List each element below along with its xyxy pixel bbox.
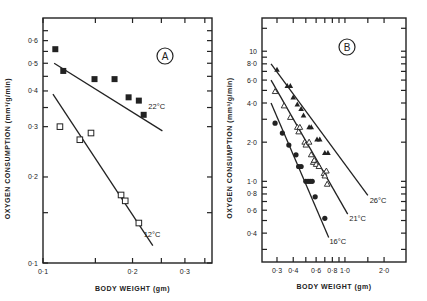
x-tick-label: 0·4 [288, 267, 298, 274]
panel-badge-label: B [344, 42, 351, 53]
y-axis-title: OXYGEN CONSUMPTION (mm³/g/min) [226, 77, 234, 218]
x-tick-label: 0·1 [38, 268, 48, 275]
data-point-circle-filled [286, 142, 291, 147]
data-point-triangle-open [306, 139, 312, 144]
data-point-square-open [136, 220, 142, 226]
y-axis-title: OXYGEN CONSUMPTION (mm³/g/min) [4, 78, 12, 219]
x-axis-title: BODY WEIGHT (gm) [296, 283, 371, 291]
x-tick-label: 0·6 [311, 267, 321, 274]
y-tick-label: 0·4 [28, 87, 38, 94]
y-tick-label: 0·6 [247, 207, 257, 214]
series-16c: 16°C [271, 103, 347, 246]
y-tick-label: 4·0 [247, 100, 257, 107]
y-tick-label: 0·3 [28, 123, 38, 130]
data-point-square-filled [126, 94, 132, 100]
data-point-square-open [122, 198, 128, 204]
regression-line [271, 103, 329, 238]
y-tick-label: 0·5 [28, 60, 38, 67]
figure: 0·10·20·30·10·20·30·40·50·6BODY WEIGHT (… [0, 0, 427, 301]
x-tick-label: 0·2 [127, 268, 137, 275]
data-point-circle-filled [280, 130, 285, 135]
y-tick-label: 0·2 [28, 173, 38, 180]
panel-a-chart: 0·10·20·30·10·20·30·40·50·6BODY WEIGHT (… [4, 18, 212, 293]
data-point-circle-filled [322, 216, 327, 221]
y-tick-label: 1·0 [247, 178, 257, 185]
x-tick-label: 1·0 [340, 267, 350, 274]
data-point-circle-filled [310, 179, 315, 184]
data-point-square-filled [136, 98, 142, 104]
data-point-square-open [88, 130, 94, 136]
y-tick-label: 0·1 [28, 260, 38, 267]
data-point-square-filled [92, 76, 98, 82]
data-point-circle-filled [293, 152, 298, 157]
data-point-circle-filled [299, 164, 304, 169]
y-tick-label: 0·6 [28, 37, 38, 44]
x-tick-label: 0·8 [327, 267, 337, 274]
y-tick-label: 6·0 [247, 77, 257, 84]
data-point-triangle-filled [301, 113, 307, 118]
plot-frame [262, 18, 406, 262]
x-tick-label: 0·3 [272, 267, 282, 274]
plot-frame [43, 18, 212, 263]
y-tick-label: 0·8 [247, 190, 257, 197]
x-tick-label: 0·3 [180, 268, 190, 275]
series-label: 12°C [144, 230, 161, 239]
data-point-square-filled [60, 68, 66, 74]
data-point-square-filled [52, 46, 58, 52]
series-label: 16°C [329, 237, 346, 246]
panel-b-chart: 0·30·40·60·81·02·00·40·60·81·02·04·06·08… [226, 18, 406, 291]
y-tick-label: 2·0 [247, 139, 257, 146]
data-point-square-filled [112, 76, 118, 82]
data-point-square-open [77, 137, 83, 143]
x-tick-label: 2·0 [379, 267, 389, 274]
series-21c: 21°C [271, 80, 367, 223]
panel-badge-label: A [162, 51, 169, 62]
data-point-circle-filled [313, 194, 318, 199]
data-point-square-filled [141, 112, 147, 118]
y-tick-label: 0·4 [247, 230, 257, 237]
y-tick-label: 8·0 [247, 60, 257, 67]
regression-line [271, 64, 368, 196]
data-point-circle-filled [272, 121, 277, 126]
data-point-square-open [57, 124, 63, 130]
y-tick-label: 10 [249, 48, 257, 55]
data-point-square-open [118, 192, 124, 198]
series-label: 26°C [370, 196, 387, 205]
series-label: 22°C [148, 102, 165, 111]
series-label: 21°C [349, 214, 366, 223]
x-axis-title: BODY WEIGHT (gm) [95, 285, 170, 293]
